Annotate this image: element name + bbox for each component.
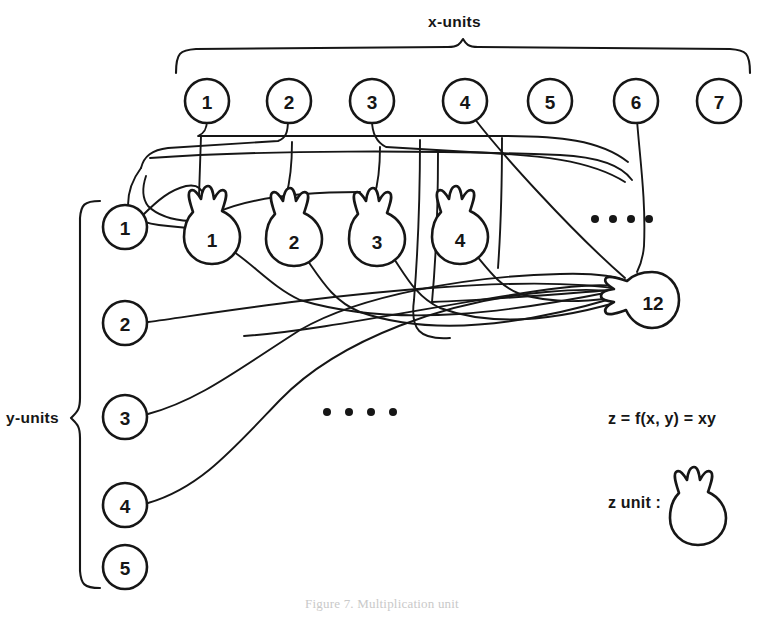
z-unit-node-4-label: 4 xyxy=(455,230,466,251)
x-unit-node-4[interactable]: 4 xyxy=(443,79,487,123)
x-units-brace xyxy=(176,39,750,73)
x-units-label: x-units xyxy=(428,13,481,30)
y-unit-node-2-label: 2 xyxy=(120,314,131,335)
y-units-brace xyxy=(71,201,100,588)
z-unit-node-12-label: 12 xyxy=(642,293,663,314)
x-unit-node-7-label: 7 xyxy=(714,92,725,113)
z-unit-node-2[interactable]: 2 xyxy=(266,188,322,266)
multiplication-unit-diagram: 1 2 3 4 5 6 7 xyxy=(0,0,764,621)
x-unit-node-1[interactable]: 1 xyxy=(185,79,229,123)
z-unit-node-12[interactable]: 12 xyxy=(601,272,679,328)
y-unit-nodes: 1 2 3 4 5 xyxy=(103,205,147,589)
x-unit-node-2[interactable]: 2 xyxy=(267,79,311,123)
z-unit-legend-label: z unit : xyxy=(608,494,661,511)
z-unit-node-3[interactable]: 3 xyxy=(349,188,405,266)
connection-curves xyxy=(128,118,644,503)
y-unit-node-3-label: 3 xyxy=(120,408,131,429)
z-unit-node-1[interactable]: 1 xyxy=(184,186,240,264)
middle-ellipsis-dots xyxy=(323,408,397,416)
x-unit-node-1-label: 1 xyxy=(202,92,213,113)
z-unit-node-1-label: 1 xyxy=(207,230,218,251)
y-unit-node-1[interactable]: 1 xyxy=(103,205,147,249)
y-unit-node-4[interactable]: 4 xyxy=(103,483,147,527)
figure-root: 1 2 3 4 5 6 7 xyxy=(0,0,764,621)
x-unit-node-3[interactable]: 3 xyxy=(350,79,394,123)
y-unit-node-3[interactable]: 3 xyxy=(103,395,147,439)
z-unit-node-4[interactable]: 4 xyxy=(432,186,488,264)
x-unit-node-5[interactable]: 5 xyxy=(528,79,572,123)
z-unit-node-2-label: 2 xyxy=(289,232,300,253)
figure-caption: Figure 7. Multiplication unit xyxy=(0,596,764,612)
y-unit-node-1-label: 1 xyxy=(120,218,131,239)
x-unit-node-7[interactable]: 7 xyxy=(697,79,741,123)
y-unit-node-5-label: 5 xyxy=(120,558,131,579)
z-unit-legend-glyph xyxy=(670,467,726,545)
x-unit-node-4-label: 4 xyxy=(460,92,471,113)
x-unit-node-6-label: 6 xyxy=(631,92,642,113)
x-unit-node-5-label: 5 xyxy=(545,92,556,113)
x-unit-node-3-label: 3 xyxy=(367,92,378,113)
x-unit-node-6[interactable]: 6 xyxy=(614,79,658,123)
y-unit-node-5[interactable]: 5 xyxy=(103,545,147,589)
x-unit-nodes: 1 2 3 4 5 6 7 xyxy=(185,79,741,123)
y-unit-node-4-label: 4 xyxy=(120,496,131,517)
x-unit-node-2-label: 2 xyxy=(284,92,295,113)
z-unit-node-3-label: 3 xyxy=(372,232,383,253)
formula-text: z = f(x, y) = xy xyxy=(608,410,716,427)
y-unit-node-2[interactable]: 2 xyxy=(103,301,147,345)
y-units-label: y-units xyxy=(6,409,59,426)
